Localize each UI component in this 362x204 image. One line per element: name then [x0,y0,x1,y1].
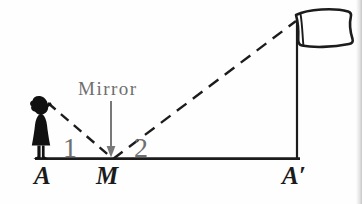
angle-1-label: 1 [63,134,77,162]
point-m-label: M [96,163,118,188]
point-a-prime-label: A′ [282,163,306,188]
angle-2-label: 2 [134,134,148,162]
mirror-diagram: Mirror 1 2 A M A′ [0,0,362,204]
down-arrow-icon [107,101,116,158]
flag-icon [296,9,353,47]
girl-figure-icon [30,96,52,159]
diagram-canvas [0,0,362,204]
point-a-label: A [34,163,51,188]
ray-eye-to-mirror [48,103,112,158]
mirror-label: Mirror [78,79,138,98]
